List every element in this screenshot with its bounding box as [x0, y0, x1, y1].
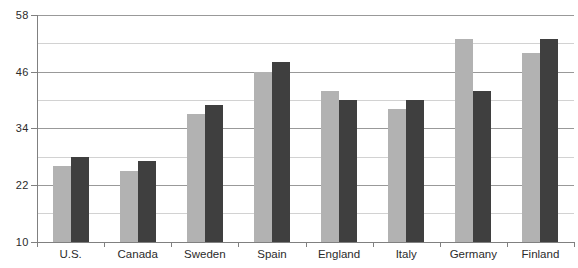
bar-dark-gray-bars — [138, 161, 156, 241]
category-label: Finland — [507, 248, 574, 260]
y-tick — [31, 15, 37, 16]
x-tick — [104, 242, 105, 247]
bar-light-gray-bars — [254, 72, 272, 242]
category-label: U.S. — [37, 248, 104, 260]
grouped-bar-chart: 5846342210U.S.CanadaSwedenSpainEnglandIt… — [0, 0, 578, 268]
x-tick — [238, 242, 239, 247]
y-tick — [31, 128, 37, 129]
gridline-minor — [37, 213, 574, 214]
bar-light-gray-bars — [455, 39, 473, 242]
gridline-minor — [37, 43, 574, 44]
y-axis-label: 22 — [2, 178, 29, 190]
category-label: Italy — [373, 248, 440, 260]
y-axis-label: 34 — [2, 122, 29, 134]
y-tick — [31, 185, 37, 186]
x-tick — [507, 242, 508, 247]
gridline-minor — [37, 100, 574, 101]
bar-light-gray-bars — [53, 166, 71, 242]
x-tick — [171, 242, 172, 247]
y-axis-label: 58 — [2, 9, 29, 21]
bar-light-gray-bars — [321, 91, 339, 242]
bar-dark-gray-bars — [71, 157, 89, 242]
y-axis-line — [37, 15, 38, 243]
bar-light-gray-bars — [522, 53, 540, 242]
category-label: Sweden — [171, 248, 238, 260]
category-label: Germany — [440, 248, 507, 260]
x-tick — [37, 242, 38, 247]
bar-dark-gray-bars — [339, 100, 357, 242]
x-tick — [373, 242, 374, 247]
category-label: England — [306, 248, 373, 260]
x-tick — [440, 242, 441, 247]
gridline-major — [37, 185, 574, 186]
x-tick — [306, 242, 307, 247]
gridline-major — [37, 72, 574, 73]
gridline-major — [37, 128, 574, 129]
bar-dark-gray-bars — [473, 91, 491, 242]
bar-light-gray-bars — [187, 114, 205, 241]
y-axis-label: 10 — [2, 235, 29, 247]
bar-dark-gray-bars — [540, 39, 558, 242]
bar-dark-gray-bars — [272, 62, 290, 241]
gridline-minor — [37, 157, 574, 158]
gridline-major — [37, 15, 574, 16]
x-tick — [574, 242, 575, 247]
y-tick — [31, 72, 37, 73]
bar-dark-gray-bars — [205, 105, 223, 242]
bar-light-gray-bars — [120, 171, 138, 242]
bar-light-gray-bars — [388, 109, 406, 241]
y-axis-label: 46 — [2, 65, 29, 77]
category-label: Canada — [104, 248, 171, 260]
bar-dark-gray-bars — [406, 100, 424, 242]
category-label: Spain — [238, 248, 305, 260]
